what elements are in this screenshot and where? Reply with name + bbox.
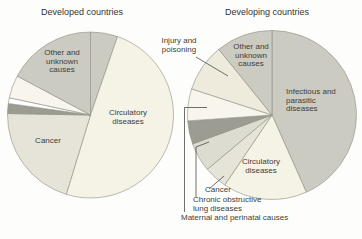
slice-label-cancer-developing: Cancer bbox=[205, 186, 231, 195]
chart-title-developing: Developing countries bbox=[225, 8, 309, 17]
slice-label-other-unknown-developed: Other and unknown causes bbox=[44, 49, 80, 75]
chart-title-developed: Developed countries bbox=[41, 8, 123, 17]
slice-label-chronic-obstructive: Chronic obstructive lung diseases bbox=[193, 196, 261, 213]
slice-label-circulatory-developed: Circulatory diseases bbox=[109, 109, 147, 126]
slice-label-cancer-developed: Cancer bbox=[35, 137, 61, 146]
slice-label-maternal-perinatal: Maternal and perinatal causes bbox=[181, 214, 288, 223]
slice-label-other-unknown-developing: Other and unknown causes bbox=[233, 43, 269, 69]
causes-of-death-figure: Developed countries Developing countries… bbox=[0, 0, 362, 239]
slice-label-infectious-parasitic: Infectious and parasitic diseases bbox=[286, 88, 336, 114]
slice-label-circulatory-developing: Circulatory diseases bbox=[242, 158, 280, 175]
slice-label-injury-poisoning: Injury and poisoning bbox=[161, 37, 196, 54]
